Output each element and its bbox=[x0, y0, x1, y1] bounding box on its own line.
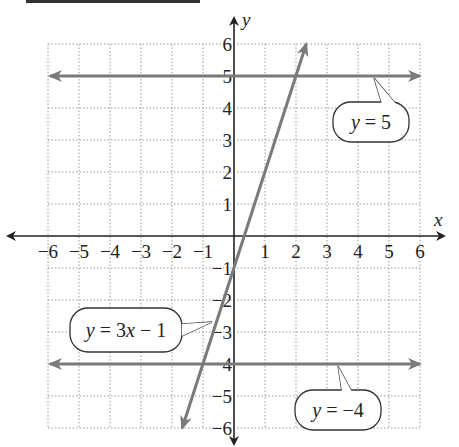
callout-y-equals-neg-4-text-part: = −4 bbox=[321, 399, 364, 421]
x-tick-label: 5 bbox=[384, 241, 394, 262]
y-tick-label: 3 bbox=[223, 130, 233, 151]
x-tick-label: −3 bbox=[131, 241, 151, 262]
x-tick-label: −5 bbox=[69, 241, 89, 262]
callout-y-equals-neg-4-text-part: y bbox=[310, 399, 321, 422]
y-tick-label: 1 bbox=[223, 194, 233, 215]
x-tick-label: −1 bbox=[193, 241, 213, 262]
y-tick-label: −5 bbox=[212, 386, 232, 407]
y-tick-label: −1 bbox=[212, 258, 232, 279]
x-axis-label: x bbox=[433, 209, 443, 230]
callout-y-equals-3x-minus-1-text-part: = 3 bbox=[95, 319, 126, 341]
y-tick-label: 2 bbox=[223, 162, 233, 183]
x-tick-label: 3 bbox=[322, 241, 332, 262]
callout-y-equals-5-text: y = 5 bbox=[349, 111, 391, 134]
x-tick-label: 2 bbox=[291, 241, 301, 262]
callout-y-equals-neg-4-text: y = −4 bbox=[310, 399, 363, 422]
x-tick-label: −2 bbox=[162, 241, 182, 262]
callout-y-equals-3x-minus-1-text: y = 3x − 1 bbox=[84, 319, 166, 342]
y-tick-label: 4 bbox=[223, 98, 233, 119]
coordinate-plane: xy −6−5−4−3−2−1123456654321−1−2−3−4−5−6 … bbox=[0, 0, 459, 447]
y-tick-label: 6 bbox=[223, 34, 233, 55]
x-tick-label: −6 bbox=[38, 241, 58, 262]
callout-y-equals-3x-minus-1-text-part: − 1 bbox=[135, 319, 166, 341]
y-axis-label: y bbox=[240, 9, 251, 30]
callout-y-equals-3x-minus-1-text-part: x bbox=[125, 319, 135, 341]
callout-y-equals-neg-4: y = −4 bbox=[295, 366, 381, 430]
callout-y-equals-5-text-part: y bbox=[349, 111, 360, 134]
x-tick-label: −4 bbox=[100, 241, 121, 262]
x-tick-label: 6 bbox=[415, 241, 425, 262]
y-tick-label: −6 bbox=[212, 418, 232, 439]
x-tick-label: 1 bbox=[260, 241, 270, 262]
callout-y-equals-3x-minus-1-text-part: y bbox=[84, 319, 95, 342]
callout-y-equals-3x-minus-1: y = 3x − 1 bbox=[70, 308, 212, 352]
x-tick-label: 4 bbox=[353, 241, 363, 262]
callout-y-equals-5-text-part: = 5 bbox=[360, 111, 391, 133]
callout-y-equals-5: y = 5 bbox=[333, 78, 409, 142]
